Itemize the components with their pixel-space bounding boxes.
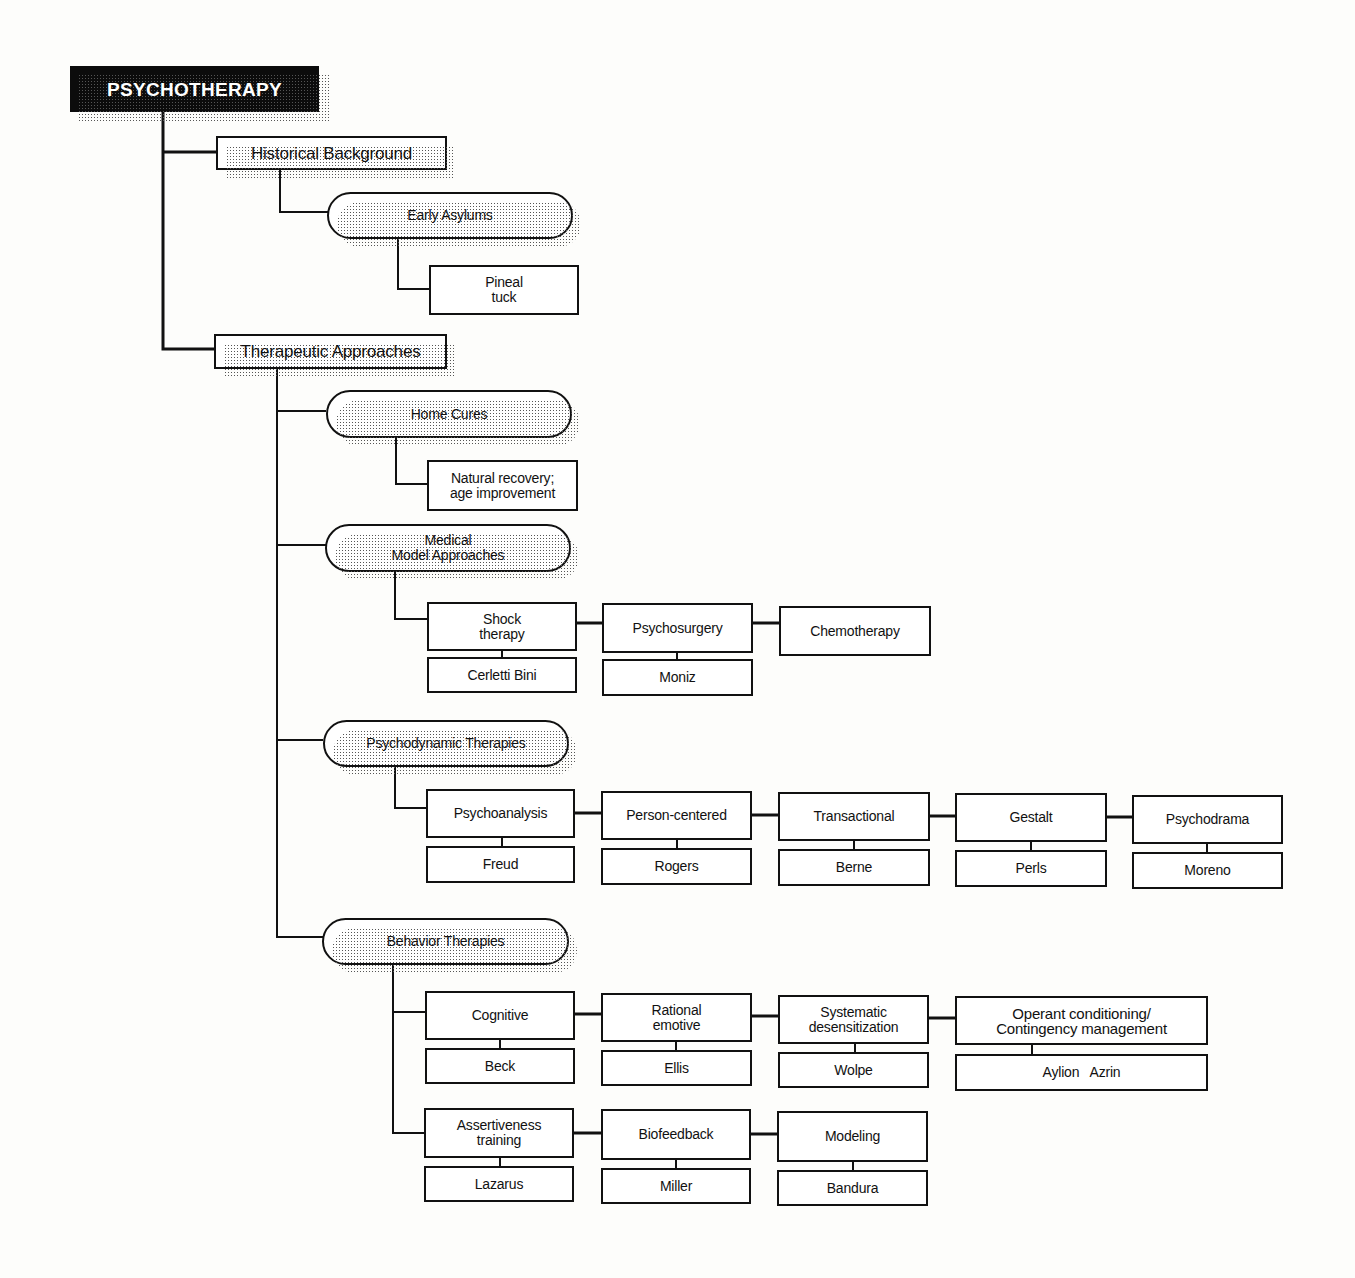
node-transactional: Transactional — [778, 792, 930, 841]
node-chemotherapy: Chemotherapy — [779, 606, 931, 656]
node-moniz: Moniz — [602, 659, 753, 696]
node-operant-conditioning: Operant conditioning/ Contingency manage… — [955, 996, 1208, 1045]
node-perls: Perls — [955, 850, 1107, 887]
node-modeling: Modeling — [777, 1111, 928, 1162]
node-lazarus: Lazarus — [424, 1166, 574, 1202]
node-psychodynamic-therapies: Psychodynamic Therapies — [323, 720, 569, 767]
node-shock-therapy: Shock therapy — [427, 602, 577, 651]
node-natural-recovery: Natural recovery; age improvement — [427, 460, 578, 511]
node-cerletti-bini: Cerletti Bini — [427, 657, 577, 693]
node-early-asylums: Early Asylums — [327, 192, 573, 239]
node-psychoanalysis: Psychoanalysis — [426, 789, 575, 838]
node-gestalt: Gestalt — [955, 793, 1107, 842]
node-rational-emotive: Rational emotive — [601, 993, 752, 1042]
node-medical-model: Medical Model Approaches — [325, 524, 571, 572]
node-assertiveness-training: Assertiveness training — [424, 1108, 574, 1158]
node-beck: Beck — [425, 1048, 575, 1084]
node-wolpe: Wolpe — [778, 1052, 929, 1088]
connector-root-trunk — [163, 112, 216, 349]
node-miller: Miller — [601, 1168, 751, 1204]
node-aylion-azrin: Aylion Azrin — [955, 1054, 1208, 1091]
node-psychodrama: Psychodrama — [1132, 795, 1283, 844]
node-berne: Berne — [778, 849, 930, 886]
node-person-centered: Person-centered — [601, 791, 752, 840]
node-bandura: Bandura — [777, 1170, 928, 1206]
node-biofeedback: Biofeedback — [601, 1109, 751, 1160]
root-node-psychotherapy: PSYCHOTHERAPY — [70, 66, 319, 112]
connector-behavior-methods — [393, 963, 425, 1133]
node-rogers: Rogers — [601, 848, 752, 885]
node-moreno: Moreno — [1132, 852, 1283, 889]
node-home-cures: Home Cures — [326, 390, 572, 438]
node-psychosurgery: Psychosurgery — [602, 603, 753, 653]
node-historical-background: Historical Background — [216, 136, 447, 170]
node-ellis: Ellis — [601, 1050, 752, 1086]
node-freud: Freud — [426, 846, 575, 883]
node-cognitive: Cognitive — [425, 991, 575, 1040]
node-behavior-therapies: Behavior Therapies — [322, 918, 569, 965]
node-therapeutic-approaches: Therapeutic Approaches — [214, 334, 447, 369]
node-systematic-desensitization: Systematic desensitization — [778, 995, 929, 1044]
connector-therapeutic-trunk — [277, 368, 323, 937]
node-pineal-tuck: Pineal tuck — [429, 265, 579, 315]
